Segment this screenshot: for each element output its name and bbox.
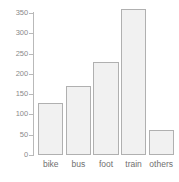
bar-column: bike <box>38 0 63 155</box>
bar-chart: 050100150200250300350 bikebusfoottrainot… <box>0 0 179 182</box>
y-axis-tick-label: 0 <box>2 151 28 159</box>
bar-bike <box>38 103 63 155</box>
bar-column: bus <box>66 0 91 155</box>
bar-others <box>149 130 174 155</box>
y-axis-tick-label: 50 <box>2 131 28 139</box>
y-axis-tick-mark <box>29 114 33 115</box>
y-axis-tick-mark <box>29 155 33 156</box>
bar-bus <box>66 86 91 155</box>
y-axis-tick-labels: 050100150200250300350 <box>0 0 28 182</box>
bar-series: bikebusfoottrainothers <box>34 0 177 182</box>
y-axis-tick-label: 350 <box>2 9 28 17</box>
bar-foot <box>93 62 118 155</box>
y-axis-tick-label: 250 <box>2 50 28 58</box>
x-axis-category-label: others <box>143 160 179 169</box>
y-axis-tick-mark <box>29 94 33 95</box>
bar-column: others <box>149 0 174 155</box>
y-axis-tick-mark <box>29 74 33 75</box>
y-axis-tick-mark <box>29 54 33 55</box>
bar-train <box>121 9 146 155</box>
bar-column: foot <box>93 0 118 155</box>
y-axis-tick-label: 150 <box>2 90 28 98</box>
y-axis-tick-mark <box>29 33 33 34</box>
bar-column: train <box>121 0 146 155</box>
y-axis-tick-label: 200 <box>2 70 28 78</box>
y-axis-tick-label: 300 <box>2 29 28 37</box>
y-axis-tick-label: 100 <box>2 110 28 118</box>
y-axis-tick-mark <box>29 135 33 136</box>
y-axis-tick-mark <box>29 13 33 14</box>
